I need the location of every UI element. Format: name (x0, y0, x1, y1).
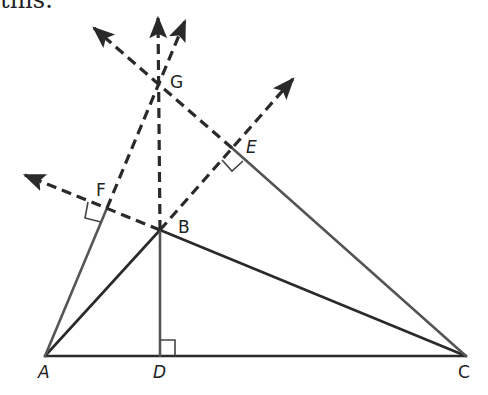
segment-AF (45, 208, 107, 356)
label-B: B (178, 217, 190, 237)
label-G: G (170, 72, 183, 92)
vertex-labels: A D C B G F E (37, 72, 470, 382)
label-F: F (96, 180, 106, 200)
label-D: D (153, 362, 166, 382)
label-C: C (458, 362, 470, 382)
ray-EG-upper-left (94, 28, 232, 148)
right-angle-marks (85, 160, 243, 356)
solid-segments (45, 148, 466, 356)
right-angle-mark-E (222, 160, 243, 171)
ray-BG-up (158, 18, 160, 230)
dashed-rays (25, 18, 293, 230)
triangle-altitudes-diagram: A D C B G F E (0, 0, 488, 395)
ray-BF-left (25, 175, 160, 230)
segment-AB (45, 230, 160, 356)
label-A: A (37, 362, 50, 382)
label-E: E (246, 137, 257, 157)
segment-BC (160, 230, 466, 356)
right-angle-mark-D (160, 340, 175, 356)
segment-EC (232, 148, 466, 356)
